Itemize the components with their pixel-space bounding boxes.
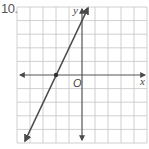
axes (20, 9, 145, 140)
coordinate-graph: y x O (0, 0, 149, 149)
y-axis-label: y (72, 4, 78, 16)
x-intercept-point (54, 73, 58, 77)
x-axis-label: x (139, 75, 145, 87)
origin-label: O (73, 77, 82, 89)
